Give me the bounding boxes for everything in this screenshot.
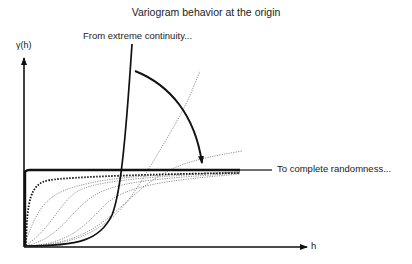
transition-arrow xyxy=(135,71,202,163)
pure-nugget-curve xyxy=(25,170,240,246)
extreme-continuity-curve xyxy=(24,44,132,246)
variogram-diagram xyxy=(0,0,412,264)
near-nugget-curve xyxy=(26,173,240,246)
gaussian-curves xyxy=(24,71,242,246)
